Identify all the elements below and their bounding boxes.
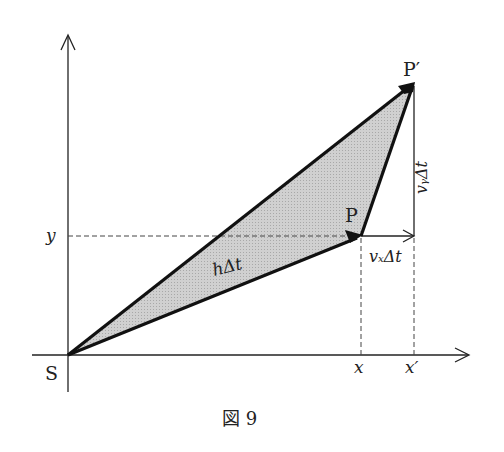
point-P-prime-label: P′ <box>403 58 420 80</box>
figure-caption: 図 9 <box>222 408 257 429</box>
x-prime-axis-label: x′ <box>405 357 419 377</box>
vy-dt-label: vᵧΔt <box>412 160 431 194</box>
origin-S-label: S <box>45 362 58 384</box>
vx-dt-arrow <box>361 230 414 242</box>
vx-dt-label: vₓΔt <box>369 247 402 266</box>
kepler-area-diagram: P′ P S y x x′ hΔt vₓΔt vᵧΔt 図 9 <box>0 0 504 452</box>
x-axis-label: x <box>354 357 364 377</box>
x-axis <box>32 348 469 362</box>
y-axis-label: y <box>45 225 56 245</box>
point-P-label: P <box>345 204 358 226</box>
y-axis <box>61 35 75 392</box>
